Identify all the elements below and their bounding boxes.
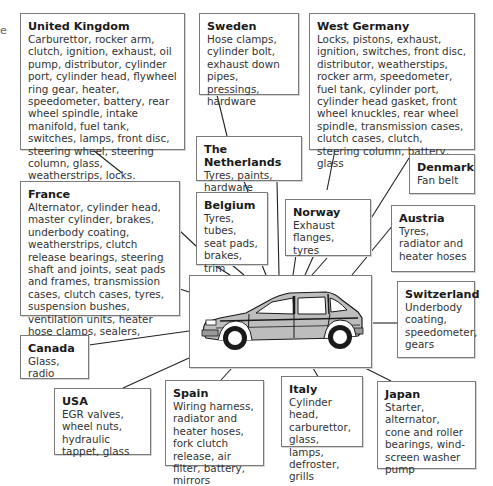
parts-list: Tyres, paints, hardware [204,169,294,194]
country-name: The Netherlands [204,143,294,169]
car-illustration-box [189,275,372,368]
parts-list: Locks, pistons, exhaust, ignition, switc… [317,33,467,169]
country-name: Norway [293,206,363,219]
country-box-sweden: Sweden Hose clamps, cylinder bolt, exhau… [199,13,299,95]
country-box-austria: Austria Tyres, radiator and heater hoses [391,205,475,272]
parts-list: Hose clamps, cylinder bolt, exhaust down… [207,33,291,107]
parts-list: Wiring harness, radiator and heater hose… [173,400,256,486]
parts-list: Alternator, cylinder head, master cylind… [28,201,172,350]
country-name: Japan [385,388,468,401]
country-box-usa: USA EGR valves, wheel nuts, hydraulic ta… [54,388,151,455]
country-box-japan: Japan Starter, alternator, cone and roll… [377,381,476,469]
country-name: Canada [28,342,81,355]
country-box-spain: Spain Wiring harness, radiator and heate… [165,380,264,466]
parts-list: Exhaust flanges, tyres [293,219,363,256]
country-box-france: France Alternator, cylinder head, master… [20,181,180,316]
parts-list: Cylinder head, carburettor, glass, lamps… [289,396,355,483]
country-box-belgium: Belgium Tyres, tubes, seat pads, brakes,… [196,192,268,265]
country-box-canada: Canada Glass, radio [20,335,89,379]
parts-list: Fan belt [417,174,467,186]
parts-list: Carburettor, rocker arm, clutch, ignitio… [28,33,177,182]
country-name: Switzerland [405,288,467,301]
country-box-italy: Italy Cylinder head, carburettor, glass,… [281,376,363,447]
country-box-norway: Norway Exhaust flanges, tyres [285,199,371,256]
country-name: Sweden [207,20,291,33]
country-box-switzerland: Switzerland Underbody coating, speedomet… [397,281,475,358]
parts-list: Starter, alternator, cone and roller bea… [385,401,468,475]
parts-list: Glass, radio [28,355,81,380]
country-box-netherlands: The Netherlands Tyres, paints, hardware [196,136,302,181]
country-name: USA [62,395,143,408]
country-name: United Kingdom [28,20,177,33]
country-name: France [28,188,172,201]
country-name: West Germany [317,20,467,33]
country-name: Belgium [204,199,260,212]
country-name: Denmark [417,161,467,174]
parts-list: EGR valves, wheel nuts, hydraulic tappet… [62,408,143,458]
parts-list: Tyres, radiator and heater hoses [399,225,467,262]
country-box-uk: United Kingdom Carburettor, rocker arm, … [20,13,185,150]
country-box-west-germany: West Germany Locks, pistons, exhaust, ig… [309,13,475,150]
parts-list: Tyres, tubes, seat pads, brakes, trim [204,212,260,274]
country-name: Spain [173,387,256,400]
country-name: Italy [289,383,355,396]
country-box-denmark: Denmark Fan belt [409,154,475,194]
country-name: Austria [399,212,467,225]
hatchback-car-icon [190,276,373,369]
parts-list: Underbody coating, speedometer, gears [405,301,467,351]
